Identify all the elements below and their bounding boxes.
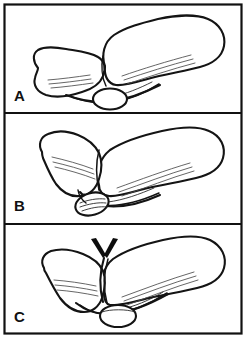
figure-svg: A (0, 0, 246, 338)
panel-a-label: A (14, 87, 25, 104)
panel-c-sesamoid (100, 305, 136, 327)
figure-root: A (0, 0, 246, 338)
panel-b-label: B (14, 197, 25, 214)
panel-c-label: C (14, 308, 25, 325)
panel-a-sesamoid (93, 89, 127, 110)
